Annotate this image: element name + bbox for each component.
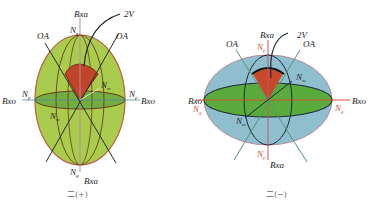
indicatrix-figure: Bxa 2V OA OA Ng Nm Np Np Bxo Bxo Nm Ng B…: [0, 0, 378, 212]
label-2v: 2V: [124, 9, 136, 19]
label-oa-left: OA: [226, 39, 238, 49]
label-oa-left: OA: [37, 31, 49, 41]
label-bottom-bxa: Bxa: [270, 160, 284, 170]
label-top-bxa: Bxa: [260, 30, 274, 40]
caption-positive: 二(+): [67, 190, 88, 199]
label-np-right: Np: [128, 89, 138, 100]
label-ng-right: Ng: [334, 103, 344, 114]
label-ng-bottom: Ng: [69, 167, 79, 178]
label-bxo-left: Bxo: [2, 96, 16, 106]
label-bxo-right: Bxo: [141, 96, 155, 106]
label-oa-right: OA: [116, 31, 128, 41]
label-np-left: Np: [21, 89, 31, 100]
diagram-positive: Bxa 2V OA OA Ng Nm Np Np Bxo Bxo Nm Ng B…: [2, 9, 155, 199]
label-ng-top: Ng: [69, 25, 79, 36]
label-oa-right: OA: [303, 39, 315, 49]
label-np-top: Np: [256, 42, 266, 53]
diagram-negative: Bxa 2V OA OA Np Nm Bxo Bxo Ng Ng Nm Np B…: [188, 30, 366, 199]
label-np-bottom: Np: [256, 149, 266, 160]
label-bxo-right: Bxo: [352, 96, 366, 106]
label-bottom-bxa: Bxa: [84, 176, 98, 186]
caption-negative: 二(−): [266, 190, 287, 199]
label-top-bxa: Bxa: [74, 9, 88, 19]
